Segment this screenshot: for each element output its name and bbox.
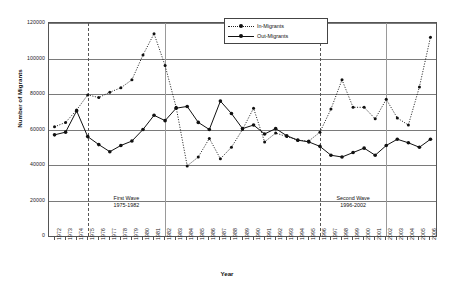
data-point	[274, 132, 277, 135]
legend-item-in-migrants: In-Migrants	[228, 21, 324, 31]
data-point	[384, 144, 388, 148]
data-point	[97, 143, 101, 147]
series-path-in-migrants	[55, 34, 431, 166]
data-point	[185, 105, 189, 109]
x-axis-tick-label: 2000	[365, 228, 371, 240]
data-point	[396, 116, 399, 119]
x-axis-tick-label: 1982	[166, 228, 172, 240]
x-axis-tick-label: 2005	[420, 228, 426, 240]
y-axis-tick-label: 60000	[30, 126, 45, 132]
data-point	[186, 164, 189, 167]
x-axis-tick-label: 1992	[277, 228, 283, 240]
x-axis-tick-label: 1988	[232, 228, 238, 240]
x-axis-tick-label: 1977	[111, 228, 117, 240]
data-point	[363, 106, 366, 109]
data-point	[263, 140, 266, 143]
annotation-first-wave: First Wave1975-1982	[86, 195, 166, 210]
y-axis-tick-label: 0	[42, 232, 45, 238]
data-point	[163, 119, 167, 123]
data-point	[385, 98, 388, 101]
data-point	[197, 156, 200, 159]
data-point	[318, 131, 321, 134]
data-point	[418, 85, 421, 88]
data-point	[130, 139, 134, 143]
data-point	[119, 86, 122, 89]
x-axis-tick-label: 1995	[310, 228, 316, 240]
data-point	[219, 157, 222, 160]
data-point	[208, 128, 212, 132]
x-axis-tick-label: 1994	[299, 228, 305, 240]
legend-label-in-migrants: In-Migrants	[257, 23, 284, 29]
data-point	[407, 141, 411, 145]
data-point	[307, 140, 311, 144]
plot-area: First Wave1975-1982Second Wave1996-2002	[48, 22, 437, 237]
annotation-range: 1975-1982	[86, 202, 166, 210]
x-axis-tick-label: 1983	[177, 228, 183, 240]
data-point	[351, 151, 355, 155]
annotation-title: Second Wave	[313, 195, 393, 203]
data-point	[329, 108, 332, 111]
x-axis-tick-label: 1974	[78, 228, 84, 240]
y-axis-tick-label: 20000	[30, 197, 45, 203]
x-axis-tick-label: 1985	[199, 228, 205, 240]
data-point	[97, 96, 100, 99]
x-axis-tick-label: 2004	[409, 228, 415, 240]
x-axis-tick-label: 1986	[210, 228, 216, 240]
annotation-range: 1996-2002	[313, 202, 393, 210]
legend-swatch-dotted-icon	[228, 22, 254, 30]
data-point	[130, 78, 133, 81]
x-axis-tick-label: 1976	[100, 228, 106, 240]
data-point	[252, 123, 256, 127]
data-point	[362, 146, 366, 150]
data-point	[86, 135, 90, 139]
x-axis-tick-label: 1993	[288, 228, 294, 240]
data-point	[373, 153, 377, 157]
data-point	[219, 99, 223, 103]
data-point	[274, 127, 278, 131]
data-point	[174, 106, 178, 110]
data-point	[429, 36, 432, 39]
y-axis-tick-label: 40000	[30, 161, 45, 167]
data-point	[418, 145, 422, 149]
data-point	[153, 32, 156, 35]
data-point	[341, 78, 344, 81]
x-axis-tick-label: 2001	[376, 228, 382, 240]
data-point	[407, 124, 410, 127]
data-point	[119, 144, 123, 148]
annotation-second-wave: Second Wave1996-2002	[313, 195, 393, 210]
data-point	[75, 109, 79, 113]
data-point	[252, 107, 255, 110]
x-axis-tick-label: 1979	[133, 228, 139, 240]
data-point	[318, 145, 322, 149]
x-axis-tick-label: 2003	[398, 228, 404, 240]
y-axis-tick-label: 120000	[27, 19, 45, 25]
data-point	[296, 138, 300, 142]
y-axis-tick-label: 100000	[27, 55, 45, 61]
data-point	[340, 155, 344, 159]
x-axis-tick-label: 1980	[144, 228, 150, 240]
data-point	[108, 150, 112, 154]
y-axis-ticks: 020000400006000080000100000120000	[0, 22, 45, 237]
x-axis-tick-label: 1972	[56, 228, 62, 240]
data-point	[429, 137, 433, 141]
x-axis-tick-label: 1999	[354, 228, 360, 240]
legend-label-out-migrants: Out-Migrants	[257, 33, 288, 39]
x-axis-tick-label: 1975	[89, 228, 95, 240]
legend: In-Migrants Out-Migrants	[224, 18, 328, 44]
x-axis-tick-label: 1989	[244, 228, 250, 240]
data-point	[164, 64, 167, 67]
data-point	[86, 93, 89, 96]
data-point	[230, 146, 233, 149]
x-axis-tick-label: 1981	[155, 228, 161, 240]
legend-item-out-migrants: Out-Migrants	[228, 31, 324, 41]
data-point	[152, 114, 156, 118]
x-axis-tick-label: 2006	[431, 228, 437, 240]
data-point	[141, 128, 145, 132]
y-axis-tick-label: 80000	[30, 90, 45, 96]
data-point	[285, 134, 289, 138]
data-point	[53, 125, 56, 128]
data-point	[329, 153, 333, 157]
x-axis-tick-label: 1990	[255, 228, 261, 240]
chart-container: Number of Migrants 020000400006000080000…	[0, 0, 454, 283]
data-point	[208, 137, 211, 140]
